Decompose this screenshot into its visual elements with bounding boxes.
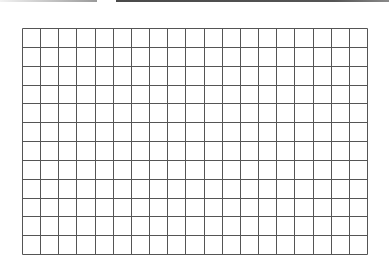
grid-lines <box>22 28 369 256</box>
top-bar-left <box>0 0 97 2</box>
top-bar-right <box>116 0 389 2</box>
blank-grid <box>22 28 369 256</box>
